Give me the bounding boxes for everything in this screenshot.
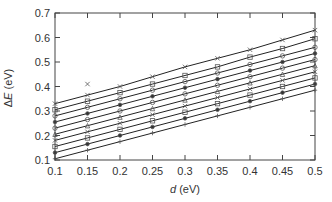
plot-area — [53, 28, 317, 161]
series-line2 — [53, 37, 317, 112]
data-point-marker — [150, 131, 154, 135]
data-point-marker — [85, 82, 89, 86]
data-point-marker — [215, 114, 219, 118]
data-point-marker — [248, 105, 252, 109]
data-point-marker — [86, 142, 90, 146]
data-point-marker — [216, 108, 220, 112]
x-tick-label: 0.3 — [177, 165, 192, 177]
y-tick-label: 0.6 — [35, 32, 50, 44]
y-tick-label: 0.3 — [35, 105, 50, 117]
x-tick-label: 0.15 — [77, 165, 98, 177]
y-tick-label: 0.4 — [35, 81, 50, 93]
x-tick-label: 0.2 — [112, 165, 127, 177]
x-tick-label: 0.5 — [307, 165, 322, 177]
y-tick-label: 0.2 — [35, 130, 50, 142]
y-tick-label: 0.5 — [35, 56, 50, 68]
data-point-marker — [280, 97, 284, 101]
data-point-marker — [281, 91, 285, 95]
data-point-marker — [248, 69, 252, 73]
y-tick-label: 0.1 — [35, 154, 50, 166]
data-point-marker — [183, 122, 187, 126]
data-point-marker — [151, 125, 155, 129]
data-point-marker — [183, 117, 187, 121]
data-point-marker — [86, 112, 90, 116]
data-point-marker — [118, 139, 122, 143]
data-point-marker — [248, 99, 252, 103]
data-point-marker — [216, 77, 220, 81]
x-axis-label: d (eV) — [170, 183, 200, 195]
data-point-marker — [118, 134, 122, 138]
data-point-marker — [118, 103, 122, 107]
line-chart: 0.10.150.20.250.30.350.40.450.5 0.10.20.… — [0, 0, 332, 202]
y-axis: 0.10.20.30.40.50.60.7 — [35, 7, 315, 166]
data-point-marker — [85, 148, 89, 152]
x-tick-label: 0.45 — [272, 165, 293, 177]
y-tick-label: 0.7 — [35, 7, 50, 19]
series-line — [55, 39, 315, 110]
data-point-marker — [151, 95, 155, 99]
x-tick-label: 0.25 — [142, 165, 163, 177]
x-tick-label: 0.4 — [242, 165, 257, 177]
x-tick-label: 0.35 — [207, 165, 228, 177]
x-tick-label: 0.1 — [47, 165, 62, 177]
y-axis-label: ΔE (eV) — [2, 69, 14, 108]
data-point-marker — [183, 86, 187, 90]
data-point-marker — [281, 60, 285, 64]
